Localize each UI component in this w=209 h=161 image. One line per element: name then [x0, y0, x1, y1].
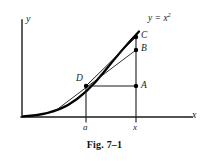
point-label-c: C	[141, 31, 147, 41]
point-marker-d	[84, 84, 88, 88]
x-axis-label: x	[192, 110, 196, 120]
curve-equation-base: y = x	[148, 13, 168, 23]
curve-equation-label: y = x2	[148, 14, 171, 24]
point-marker-b	[134, 48, 138, 52]
point-marker-c	[134, 35, 138, 39]
point-marker-a	[134, 84, 138, 88]
figure-drawing	[0, 0, 209, 161]
tick-label-a: a	[83, 123, 88, 132]
tangent-line-at-d	[55, 50, 136, 111]
curve-equation-exponent: 2	[168, 11, 171, 18]
figure-caption: Fig. 7–1	[0, 139, 209, 150]
tick-label-x: x	[133, 123, 137, 132]
point-label-a: A	[141, 81, 147, 91]
secant-line-d-to-c	[86, 37, 136, 86]
point-label-b: B	[141, 44, 147, 54]
point-label-d: D	[76, 74, 83, 84]
figure-7-1: y x y = x2 C B A D a x Fig. 7–1	[0, 0, 209, 161]
y-axis-label: y	[26, 14, 30, 24]
